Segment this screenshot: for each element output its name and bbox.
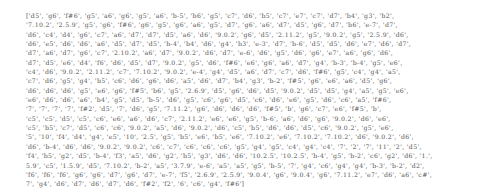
text-line: 'd6', 'c4', 'd4', 'g6', 'c7', 'a6', 'd7'… [26, 30, 466, 39]
text-line: 'f6', 'f6', 'f6', 'g6', 'g6', 'd7', 'g6'… [26, 170, 466, 179]
text-line: '7', '7', '7', '7', 'f#2', 'd5', '7', 'd… [26, 104, 466, 113]
text-line: 'd7', 'd5', 'e6', 'd4', 'f6', 'd6', 'd5'… [26, 58, 466, 67]
text-line: 5.9', 'c5', '1.5.9', 'd5', '7.10.2', 'b-… [26, 161, 466, 170]
text-line: 'c5', 'b5', 'c7', 'd5', 'c6', 'c6', '9.0… [26, 123, 466, 132]
text-line: 'd7', 'a6', 'd7', 'g6', 'c7', '2.10.2', … [26, 48, 466, 57]
text-line: 'c7', 'd6', 'g5', 'g4', 'b5', 'c6', 'd6'… [26, 76, 466, 85]
text-line: 'd6', 'd6', 'd6', 'g5', 'e6', 'g6', 'f#5… [26, 86, 466, 95]
text-line: '7.10.2', '2.5.9', 'g5', 'g6', 'f#6', 'g… [26, 20, 466, 29]
text-line: 'c4', 'd6', '9.0.2', '2.11.2', 'c7', '7.… [26, 67, 466, 76]
text-line: 'd6', 'b-4', 'd6', 'd6', '9.0.2', '9.0.2… [26, 142, 466, 151]
text-line: '5', '10', 'f4', 'd4', 'g4', 'e5', '10',… [26, 132, 466, 141]
text-line: 'e6', 'd6', 'd6', 'a6', 'b4', 'g5', 'd5'… [26, 95, 466, 104]
text-line: 'd6', 'e5', 'd6', 'd6', 'a6', 'd5', 'd7'… [26, 39, 466, 48]
text-line: 'f4', 'b5', 'g2', 'd5', 'b-4', 'f3', 'a5… [26, 151, 466, 160]
text-document: ['d5', 'g6', 'f#6', 'g5', 'a6', 'g6', 'g… [26, 11, 466, 189]
text-line: 7', 'g4', 'd6', 'd7', 'd6', 'd7', 'd6', … [26, 179, 466, 188]
text-line: ['d5', 'g6', 'f#6', 'g5', 'a6', 'g6', 'g… [26, 11, 466, 20]
text-line: 'c5', 'c5', 'd5', 'c5', 'c6', 'e6', 'a6'… [26, 114, 466, 123]
